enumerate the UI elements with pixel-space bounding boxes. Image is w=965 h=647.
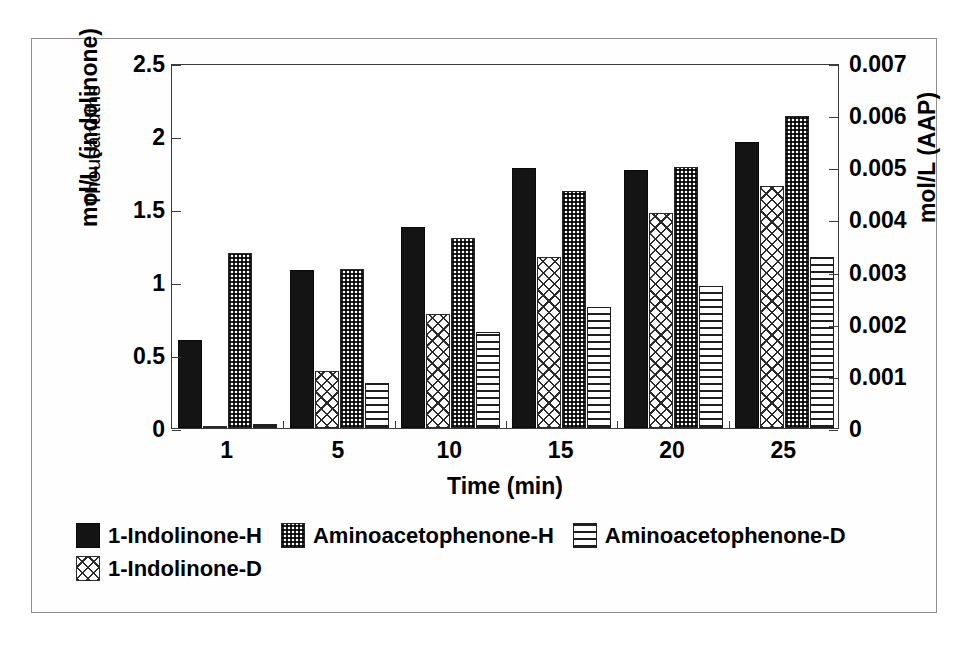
y-tick-right bbox=[829, 169, 838, 170]
x-axis-tick-label: 1 bbox=[220, 437, 233, 464]
bar bbox=[451, 238, 475, 428]
bar bbox=[253, 424, 277, 428]
legend-item[interactable]: 1-Indolinone-D bbox=[76, 556, 262, 581]
legend-swatch-icon bbox=[573, 523, 597, 548]
x-axis-tick-label: 20 bbox=[659, 437, 685, 464]
y-tick-left bbox=[172, 430, 181, 431]
plot-area bbox=[171, 64, 839, 429]
y-axis-right-tick-label: 0.006 bbox=[849, 105, 907, 128]
x-axis-tick-label: 25 bbox=[771, 437, 797, 464]
legend-swatch-icon bbox=[281, 523, 305, 548]
legend-item[interactable]: 1-Indolinone-H bbox=[76, 523, 262, 548]
bar bbox=[178, 340, 202, 428]
legend-swatch-icon bbox=[76, 523, 100, 548]
y-axis-right-tick-label: 0.002 bbox=[849, 313, 907, 336]
x-axis-tick-label: 10 bbox=[437, 437, 463, 464]
y-axis-right-tick-label: 0.003 bbox=[849, 261, 907, 284]
legend-swatch-icon bbox=[76, 556, 100, 581]
bar bbox=[476, 332, 500, 428]
y-axis-right-tick-label: 0.005 bbox=[849, 157, 907, 180]
x-tick bbox=[729, 421, 730, 428]
x-axis-title: Time (min) bbox=[171, 473, 839, 500]
y-axis-right-ticks: 00.0010.0020.0030.0040.0050.0060.007 bbox=[849, 64, 949, 429]
x-tick bbox=[395, 421, 396, 428]
bar bbox=[735, 142, 759, 428]
y-tick-right bbox=[829, 430, 838, 431]
legend-label: Aminoacetophenone-H bbox=[313, 525, 554, 547]
bar bbox=[290, 270, 314, 428]
bar bbox=[228, 253, 252, 428]
bar bbox=[624, 170, 648, 428]
legend-label: Aminoacetophenone-D bbox=[605, 525, 846, 547]
y-tick-left bbox=[172, 138, 181, 139]
y-axis-right-tick-label: 0 bbox=[849, 418, 862, 441]
y-tick-right bbox=[829, 117, 838, 118]
bar bbox=[401, 227, 425, 428]
x-axis-tick-label: 15 bbox=[548, 437, 574, 464]
x-axis-tick-label: 5 bbox=[332, 437, 345, 464]
bar bbox=[649, 213, 673, 428]
bar bbox=[587, 307, 611, 428]
bar bbox=[315, 371, 339, 428]
bar bbox=[512, 168, 536, 428]
legend-label: 1-Indolinone-H bbox=[108, 525, 262, 547]
bar bbox=[699, 286, 723, 428]
figure-frame: mol/L (indolinone) Thousandths mol/L (AA… bbox=[31, 38, 937, 613]
x-tick bbox=[506, 421, 507, 428]
bar bbox=[203, 426, 227, 428]
y-axis-left-ticks: 00.511.522.5 bbox=[89, 64, 165, 429]
y-tick-right bbox=[829, 274, 838, 275]
y-tick-right bbox=[829, 326, 838, 327]
bar bbox=[340, 269, 364, 428]
bar bbox=[760, 186, 784, 428]
bar bbox=[810, 257, 834, 428]
chart-legend: 1-Indolinone-HAminoacetophenone-HAminoac… bbox=[76, 523, 916, 589]
legend-item[interactable]: Aminoacetophenone-H bbox=[281, 523, 554, 548]
bar bbox=[365, 383, 389, 428]
bars-layer bbox=[172, 65, 838, 428]
y-tick-left bbox=[172, 211, 181, 212]
y-axis-right-tick-label: 0.004 bbox=[849, 209, 907, 232]
y-axis-left-tick-label: 2 bbox=[95, 126, 165, 149]
bar bbox=[537, 257, 561, 428]
y-tick-left bbox=[172, 357, 181, 358]
y-tick-left bbox=[172, 65, 181, 66]
y-axis-left-tick-label: 1 bbox=[95, 272, 165, 295]
y-axis-left-tick-label: 1.5 bbox=[95, 199, 165, 222]
y-axis-left-tick-label: 0 bbox=[95, 418, 165, 441]
y-axis-right-tick-label: 0.001 bbox=[849, 365, 907, 388]
y-tick-left bbox=[172, 284, 181, 285]
y-axis-left-tick-label: 2.5 bbox=[95, 53, 165, 76]
y-tick-right bbox=[829, 221, 838, 222]
y-tick-right bbox=[829, 65, 838, 66]
x-axis-ticks: 1510152025 bbox=[171, 437, 839, 471]
legend-item[interactable]: Aminoacetophenone-D bbox=[573, 523, 846, 548]
bar bbox=[785, 116, 809, 428]
y-tick-right bbox=[829, 378, 838, 379]
legend-label: 1-Indolinone-D bbox=[108, 558, 262, 580]
y-axis-left-tick-label: 0.5 bbox=[95, 345, 165, 368]
x-tick bbox=[283, 421, 284, 428]
bar bbox=[674, 167, 698, 428]
bar bbox=[562, 191, 586, 428]
bar bbox=[426, 314, 450, 428]
y-axis-right-tick-label: 0.007 bbox=[849, 53, 907, 76]
bar-chart: mol/L (indolinone) Thousandths mol/L (AA… bbox=[32, 39, 938, 614]
x-tick bbox=[617, 421, 618, 428]
